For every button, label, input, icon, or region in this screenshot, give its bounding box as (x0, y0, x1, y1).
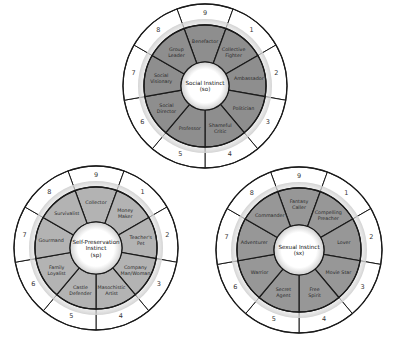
subtype-label-line: Spirit (308, 293, 321, 298)
subtype-label-line: Secret (276, 287, 291, 292)
enneagram-subtype-wheels: 912345678BenefactorCollectiveFighterAmba… (0, 0, 398, 348)
subtype-label-line: Fantasy (290, 199, 309, 204)
type-number: 2 (274, 69, 278, 77)
type-number: 2 (165, 231, 169, 239)
type-number: 3 (157, 280, 161, 288)
wheel-self-preservation-instinct: 912345678CollectorMoneyMakerTeacher'sPet… (14, 166, 178, 330)
instinct-title-line: (so) (200, 86, 211, 92)
subtype-label: Ambassador (234, 76, 264, 81)
subtype-label-line: Adventurer (241, 240, 268, 245)
subtype-label: SecretAgent (276, 287, 291, 298)
subtype-label: CollectiveFighter (222, 47, 246, 58)
subtype-label-line: Defender (69, 291, 91, 296)
instinct-title-line: Social Instinct (185, 80, 225, 86)
subtype-label-line: Artist (105, 291, 118, 296)
subtype-label-line: Survivalist (54, 211, 79, 216)
subtype-label-line: Preacher (318, 216, 339, 221)
subtype-label-line: Warrior (251, 270, 269, 275)
subtype-label-line: Commander (255, 213, 285, 218)
subtype-label-line: Loyalist (47, 271, 65, 276)
subtype-label: Commander (255, 213, 285, 218)
subtype-label: Movie Star (326, 270, 352, 275)
subtype-label-line: Agent (276, 293, 290, 298)
subtype-label-line: Director (157, 109, 176, 114)
type-number: 5 (272, 315, 276, 323)
subtype-label: FantasyCaller (290, 199, 309, 210)
type-number: 7 (132, 69, 136, 77)
subtype-label-line: Lover (337, 240, 350, 245)
type-number: 6 (140, 118, 144, 126)
subtype-label: Lover (337, 240, 350, 245)
subtype-label-line: Company (124, 265, 147, 270)
subtype-label: SocialDirector (157, 103, 176, 114)
subtype-label-line: Visionary (150, 79, 172, 84)
subtype-label: MoneyMaker (117, 208, 133, 219)
type-number: 6 (233, 283, 237, 291)
instinct-title-line: Instinct (86, 245, 107, 251)
type-number: 1 (141, 188, 145, 196)
type-number: 8 (156, 26, 160, 34)
subtype-label: FamilyLoyalist (47, 265, 65, 276)
subtype-label-line: Collective (222, 47, 246, 52)
type-number: 7 (225, 233, 229, 241)
subtype-label: Collector (85, 200, 106, 205)
subtype-label: CompellingPreacher (315, 210, 342, 221)
subtype-label: Survivalist (54, 211, 79, 216)
subtype-label-line: Gourmand (39, 238, 64, 243)
subtype-label-line: Masochistic (98, 285, 126, 290)
type-number: 9 (297, 172, 301, 180)
type-number: 4 (119, 312, 123, 320)
type-number: 6 (31, 280, 35, 288)
subtype-label-line: Teacher's (129, 235, 153, 240)
subtype-label: Professor (179, 126, 201, 131)
subtype-label-line: Shameful (209, 123, 232, 128)
instinct-title-line: Self-Preservation (72, 239, 120, 245)
subtype-label-line: Leader (168, 53, 184, 58)
subtype-label-line: Castle (73, 285, 88, 290)
type-number: 4 (322, 315, 326, 323)
subtype-label: CompanyMan/Woman (121, 265, 151, 276)
subtype-label: FreeSpirit (308, 287, 321, 298)
type-number: 9 (203, 9, 207, 17)
subtype-label-line: Compelling (315, 210, 342, 215)
subtype-label: GroupLeader (168, 47, 184, 58)
subtype-label-line: Group (169, 47, 184, 52)
type-number: 5 (69, 312, 73, 320)
instinct-title-line: Sexual Instinct (278, 244, 320, 250)
type-number: 5 (178, 150, 182, 158)
instinct-title-line: (sx) (294, 250, 305, 256)
subtype-label-line: Movie Star (326, 270, 352, 275)
type-number: 3 (361, 283, 365, 291)
subtype-label-line: Fighter (225, 53, 242, 58)
type-number: 8 (47, 188, 51, 196)
type-number: 4 (228, 150, 232, 158)
subtype-label-line: Pet (137, 241, 145, 246)
subtype-label-line: Collector (85, 200, 106, 205)
subtype-label-line: Social (159, 103, 173, 108)
type-number: 7 (23, 231, 27, 239)
subtype-label-line: Professor (179, 126, 201, 131)
instinct-title-line: (sp) (91, 252, 102, 259)
subtype-label-line: Benefactor (192, 39, 218, 44)
type-number: 3 (266, 118, 270, 126)
subtype-label-line: Maker (118, 214, 133, 219)
subtype-label: Benefactor (192, 39, 218, 44)
subtype-label: Adventurer (241, 240, 268, 245)
subtype-label-line: Politician (233, 106, 255, 111)
subtype-label-line: Caller (292, 205, 306, 210)
wheel-sexual-instinct: 912345678FantasyCallerCompellingPreacher… (216, 167, 382, 333)
type-number: 1 (250, 26, 254, 34)
subtype-label: Gourmand (39, 238, 64, 243)
subtype-label-line: Free (309, 287, 319, 292)
subtype-label-line: Critic (214, 129, 227, 134)
subtype-label: Warrior (251, 270, 269, 275)
type-number: 8 (250, 189, 254, 197)
subtype-label-line: Family (49, 265, 65, 270)
subtype-label-line: Money (117, 208, 133, 213)
type-number: 1 (344, 189, 348, 197)
subtype-label-line: Man/Woman (121, 271, 151, 276)
wheel-social-instinct: 912345678BenefactorCollectiveFighterAmba… (123, 4, 287, 168)
subtype-label-line: Social (154, 73, 168, 78)
type-number: 2 (369, 233, 373, 241)
subtype-label: Politician (233, 106, 255, 111)
